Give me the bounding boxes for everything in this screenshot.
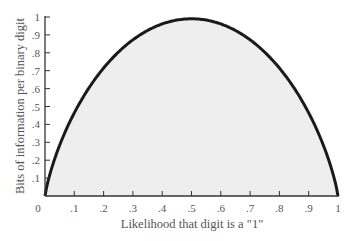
x-tick-label: 1: [335, 202, 341, 214]
curve-fill: [45, 19, 338, 196]
x-tick-label: .1: [70, 202, 78, 214]
y-tick-label: .9: [32, 29, 41, 41]
x-axis-label: Likelihood that digit is a "1": [121, 217, 263, 231]
y-tick-label: .3: [32, 136, 41, 148]
x-tick-label: .8: [275, 202, 284, 214]
x-tick-label: .6: [217, 202, 226, 214]
x-tick-label: .4: [158, 202, 167, 214]
x-tick-label: .7: [246, 202, 255, 214]
x-tick-label: 0: [35, 202, 41, 214]
plot-area: [45, 19, 338, 196]
x-tick-label: .5: [187, 202, 196, 214]
y-axis-label: Bits of information per binary digit: [13, 17, 27, 194]
y-ticks: .1.2.3.4.5.6.7.8.91: [32, 11, 50, 184]
y-tick-label: .1: [32, 172, 40, 184]
y-tick-label: .5: [32, 101, 41, 113]
y-tick-label: 1: [35, 11, 41, 23]
y-tick-label: .4: [32, 118, 41, 130]
x-tick-label: .3: [129, 202, 138, 214]
x-tick-label: .2: [99, 202, 107, 214]
y-tick-label: .2: [32, 154, 40, 166]
x-tick-label: .9: [305, 202, 314, 214]
y-tick-label: .7: [32, 65, 41, 77]
y-tick-label: .8: [32, 47, 41, 59]
entropy-chart: 0.1.2.3.4.5.6.7.8.91 .1.2.3.4.5.6.7.8.91…: [0, 0, 360, 241]
y-tick-label: .6: [32, 83, 41, 95]
